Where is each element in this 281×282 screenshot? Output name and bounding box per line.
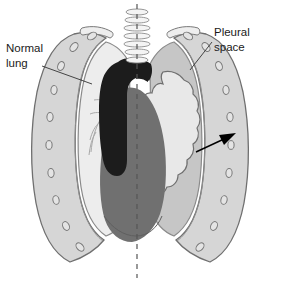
label-normal-lung-line1: Normal bbox=[6, 42, 43, 54]
label-pleural-space-line2: space bbox=[214, 41, 245, 53]
bronchus-right-stub bbox=[136, 65, 148, 82]
label-pleural-space-line1: Pleural bbox=[214, 26, 250, 38]
lung-pneumothorax-illustration: Normal lung Pleural space bbox=[0, 0, 281, 282]
label-normal-lung-line2: lung bbox=[6, 57, 28, 69]
anatomical-figure: Normal lung Pleural space bbox=[0, 0, 281, 282]
